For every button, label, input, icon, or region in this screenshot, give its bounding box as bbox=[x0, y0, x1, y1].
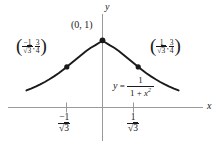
tick-right-fraction: 1√3 bbox=[127, 113, 139, 134]
label-maximum-point-text: (0, 1) bbox=[71, 19, 93, 30]
label-equation: y = 11 + x2 bbox=[113, 75, 154, 99]
equation-denominator-exponent: 2 bbox=[148, 87, 151, 93]
tick-right-denominator: √3 bbox=[127, 124, 139, 134]
left-inflection-x-radicand: 3 bbox=[27, 45, 32, 55]
label-left-inflection: (−1√3,34) bbox=[16, 36, 47, 55]
equation-equals-sign: = bbox=[117, 81, 127, 91]
label-maximum-point: (0, 1) bbox=[71, 20, 93, 30]
right-inflection-x-denominator: √3 bbox=[156, 47, 166, 55]
right-inflection-x-radicand: 3 bbox=[161, 45, 166, 55]
left-inflection-close-paren: ) bbox=[40, 35, 46, 56]
equation-denominator-lead: 1 + bbox=[130, 88, 144, 98]
equation-numerator: 1 bbox=[127, 75, 154, 87]
left-inflection-x-fraction: −1√3 bbox=[22, 39, 32, 56]
point-inflection-right bbox=[136, 64, 141, 69]
equation-denominator: 1 + x2 bbox=[127, 87, 154, 99]
tick-left-denominator: √3 bbox=[58, 124, 70, 134]
left-inflection-x-denominator: √3 bbox=[22, 47, 32, 55]
equation-fraction: 11 + x2 bbox=[127, 75, 154, 99]
right-inflection-close-paren: ) bbox=[174, 35, 180, 56]
tick-label-right: 1√3 bbox=[127, 113, 139, 134]
tick-label-left: −1√3 bbox=[58, 113, 70, 134]
tick-right-radicand: 3 bbox=[133, 122, 139, 133]
right-inflection-x-fraction: 1√3 bbox=[156, 39, 166, 56]
plot-svg bbox=[0, 0, 221, 148]
y-axis-label: y bbox=[105, 2, 109, 12]
tick-left-radicand: 3 bbox=[64, 122, 70, 133]
label-right-inflection: (1√3,34) bbox=[150, 36, 181, 55]
point-maximum bbox=[100, 37, 106, 43]
x-axis-label: x bbox=[207, 101, 211, 111]
point-inflection-left bbox=[64, 64, 69, 69]
figure-graph-of-witch-of-agnesi: y x (0, 1) (−1√3,34) (1√3,34) y = 11 + x… bbox=[0, 0, 221, 148]
tick-left-fraction: −1√3 bbox=[58, 113, 70, 134]
